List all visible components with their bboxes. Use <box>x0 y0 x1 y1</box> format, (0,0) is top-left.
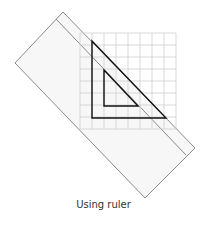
ruler-diagram <box>0 0 207 229</box>
figure-caption: Using ruler <box>0 199 207 210</box>
